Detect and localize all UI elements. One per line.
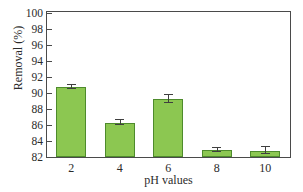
y-axis-tick-mark [47,141,52,142]
y-axis-tick-mark [47,93,52,94]
y-axis-tick-mark [47,29,52,30]
y-axis-tick-label: 84 [32,133,44,149]
bar [105,123,135,157]
y-axis-tick-label: 96 [32,37,44,53]
error-bar-cap-upper [212,147,221,148]
y-axis-tick-label: 100 [26,5,43,21]
y-axis-tick-label: 82 [32,149,44,165]
y-axis-tick-label: 88 [32,101,44,117]
y-axis-tick-mark [47,77,52,78]
error-bar-cap-lower [212,151,221,152]
y-axis-title: Removal (%) [10,0,26,118]
y-axis-tick-label: 90 [32,85,44,101]
error-bar-cap-lower [261,153,270,154]
y-axis-tick-label: 98 [32,21,44,37]
y-axis-tick-label: 86 [32,117,44,133]
y-axis-tick-mark [47,157,52,158]
y-axis-tick-label: 92 [32,69,44,85]
error-bar-cap-upper [261,146,270,147]
plot-area: 828486889092949698100246810 [46,11,291,158]
error-bar-cap-lower [67,88,76,89]
bar-chart-figure: Removal (%) 828486889092949698100246810 … [0,0,303,192]
bar [153,99,183,157]
y-axis-tick-mark [47,45,52,46]
error-bar-cap-upper [164,94,173,95]
y-axis-tick-mark [47,125,52,126]
x-axis-title: pH values [46,173,291,188]
bar [56,87,86,157]
y-axis-tick-mark [47,109,52,110]
error-bar-cap-lower [115,124,124,125]
y-axis-tick-mark [47,61,52,62]
y-axis-tick-label: 94 [32,53,44,69]
plot-inner: 828486889092949698100246810 [47,12,290,157]
error-bar-cap-upper [115,119,124,120]
error-bar-cap-lower [164,102,173,103]
error-bar-cap-upper [67,84,76,85]
y-axis-tick-mark [47,13,52,14]
